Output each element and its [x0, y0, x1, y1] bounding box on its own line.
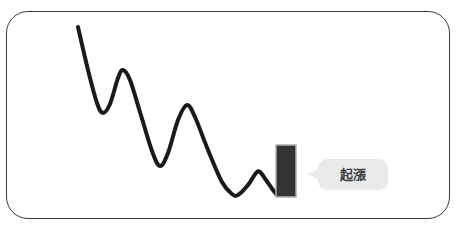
callout-pointer-icon [307, 169, 319, 180]
price-wave-line [78, 27, 277, 196]
figure-canvas: 起漲 [0, 0, 457, 229]
bullish-candle-bar [276, 145, 296, 197]
annotation-callout: 起漲 [318, 159, 388, 190]
annotation-label: 起漲 [340, 168, 367, 181]
wave-chart [0, 0, 457, 229]
